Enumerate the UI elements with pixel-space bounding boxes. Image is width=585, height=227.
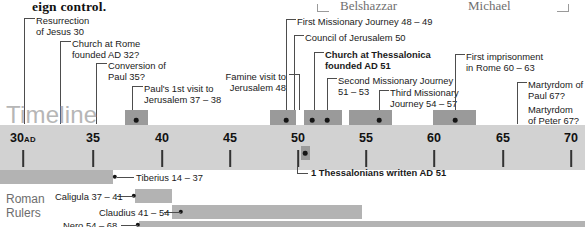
callout-first-missionary-journey-line1: First Missionary Journey 48 – 49 <box>297 17 432 28</box>
callout-church-at-thessalonica-line2: founded AD 51 <box>325 61 431 72</box>
callout-first-imprisonment-line2: in Rome 60 – 63 <box>466 63 543 74</box>
callout-conversion-of-paul-line2: Paul 35? <box>108 72 166 83</box>
callout-famine-visit-line1: Famine visit to <box>200 72 286 83</box>
ruler-label-claudius: Claudius 41 – 54 <box>99 207 169 218</box>
axis-tick-35 <box>92 150 94 167</box>
callout-council-of-jerusalem-line1: Council of Jerusalem 50 <box>305 33 406 44</box>
callout-church-at-rome-line1: Church at Rome <box>72 39 140 50</box>
axis-label-70: 70 <box>564 131 578 145</box>
callout-third-missionary-journey-line2: Journey 54 – 57 <box>390 99 459 110</box>
callout-martyrdom-of-peter: Martyrdom of Peter 67? <box>528 105 579 126</box>
axis-label-30-year: 30 <box>10 131 24 145</box>
leader-elbow-resurrection <box>24 18 35 19</box>
ruler-leader-nero <box>121 225 138 226</box>
leader-elbow-church-at-rome <box>60 41 71 42</box>
axis-label-35: 35 <box>86 131 100 145</box>
leader-elbow-one-thessalonians <box>297 173 308 174</box>
axis-tick-65 <box>502 150 504 167</box>
leader-stem-church-at-thessalonica <box>314 52 315 110</box>
marker-dot-one-thessalonians <box>303 151 308 156</box>
leader-elbow-second-missionary-journey <box>327 78 337 79</box>
header-bracket-right <box>557 4 569 12</box>
callout-martyrdom-of-paul-line1: Martyrdom of <box>528 80 583 91</box>
leader-elbow-conversion-of-paul <box>96 63 107 64</box>
axis-tick-55 <box>365 150 367 167</box>
callout-famine-visit-line2: Jerusalem 48 <box>200 83 286 94</box>
callout-martyrdom-of-paul-line2: Paul 67? <box>528 91 583 102</box>
event-dot-pauls-first-visit <box>134 118 139 123</box>
axis-tick-40 <box>161 150 163 167</box>
ruler-bar-nero[interactable] <box>139 221 585 227</box>
leader-elbow-pauls-first-visit <box>132 86 143 87</box>
callout-church-at-rome: Church at Rome founded AD 32? <box>72 39 140 60</box>
event-dot-council-of-jerusalem <box>310 118 315 123</box>
header-name-belshazzar: Belshazzar <box>340 0 397 14</box>
event-dot-first-missionary-journey <box>284 118 289 123</box>
leader-stem-pauls-first-visit <box>132 86 133 110</box>
axis-tick-70 <box>570 150 572 167</box>
callout-council-of-jerusalem: Council of Jerusalem 50 <box>305 33 406 44</box>
cut-body-text: eign control. <box>32 0 106 15</box>
leader-elbow-first-imprisonment <box>455 54 465 55</box>
callout-martyrdom-of-paul: Martyrdom of Paul 67? <box>528 80 583 101</box>
callout-famine-visit: Famine visit to Jerusalem 48 <box>200 72 286 93</box>
callout-martyrdom-of-peter-line1: Martyrdom <box>528 105 579 116</box>
axis-tick-30 <box>22 150 24 167</box>
callout-church-at-thessalonica-line1: Church at Thessalonica <box>325 50 431 61</box>
callout-third-missionary-journey: Third Missionary Journey 54 – 57 <box>390 88 459 109</box>
ruler-bar-claudius[interactable] <box>172 205 362 219</box>
leader-stem-council-of-jerusalem <box>294 35 295 110</box>
axis-label-55: 55 <box>359 131 373 145</box>
axis-era-suffix: AD <box>24 135 36 144</box>
callout-resurrection-line2: of Jesus 30 <box>36 27 89 38</box>
leader-stem-one-thessalonians <box>297 160 298 173</box>
callout-conversion-of-paul: Conversion of Paul 35? <box>108 61 166 82</box>
leader-stem-famine-visit <box>299 74 300 110</box>
event-dot-second-missionary-journey <box>325 118 330 123</box>
leader-stem-martyrdoms <box>517 82 518 124</box>
axis-label-45: 45 <box>223 131 237 145</box>
ruler-bar-caligula[interactable] <box>135 189 172 203</box>
leader-stem-third-missionary-journey <box>379 90 380 110</box>
leader-stem-first-missionary-journey <box>286 19 287 110</box>
note-one-thessalonians: 1 Thessalonians written AD 51 <box>311 168 446 179</box>
ruler-leader-tiberius <box>117 177 134 178</box>
callout-church-at-thessalonica: Church at Thessalonica founded AD 51 <box>325 50 431 71</box>
leader-elbow-council-of-jerusalem <box>294 35 304 36</box>
axis-tick-45 <box>229 150 231 167</box>
axis-label-60: 60 <box>427 131 441 145</box>
ruler-label-nero: Nero 54 – 68 <box>63 220 117 227</box>
roman-rulers-heading-line2: Rulers <box>6 207 45 221</box>
axis-label-40: 40 <box>155 131 169 145</box>
leader-stem-second-missionary-journey <box>327 78 328 110</box>
leader-elbow-martyrdoms <box>517 82 527 83</box>
roman-rulers-heading-line1: Roman <box>6 193 45 207</box>
event-dot-third-missionary-journey <box>377 118 382 123</box>
callout-first-imprisonment: First imprisonment in Rome 60 – 63 <box>466 52 543 73</box>
callout-first-imprisonment-line1: First imprisonment <box>466 52 543 63</box>
timeline-heading: Timeline <box>6 101 97 129</box>
axis-label-65: 65 <box>496 131 510 145</box>
header-name-michael: Michael <box>468 0 511 14</box>
leader-elbow-church-at-thessalonica <box>314 52 324 53</box>
axis-tick-60 <box>433 150 435 167</box>
header-bracket-left <box>317 4 329 12</box>
callout-third-missionary-journey-line1: Third Missionary <box>390 88 459 99</box>
callout-first-missionary-journey: First Missionary Journey 48 – 49 <box>297 17 432 28</box>
callout-pauls-first-visit-line2: Jerusalem 37 – 38 <box>144 95 221 106</box>
callout-second-missionary-journey-line1: Second Missionary Journey <box>338 76 453 87</box>
callout-church-at-rome-line2: founded AD 32? <box>72 50 140 61</box>
callout-resurrection-line1: Resurrection <box>36 16 89 27</box>
leader-elbow-third-missionary-journey <box>379 90 389 91</box>
callout-resurrection: Resurrection of Jesus 30 <box>36 16 89 37</box>
leader-elbow-first-missionary-journey <box>286 19 296 20</box>
axis-label-50: 50 <box>291 131 305 145</box>
event-dot-first-imprisonment <box>453 118 458 123</box>
ruler-label-caligula: Caligula 37 – 41 <box>55 191 123 202</box>
callout-conversion-of-paul-line1: Conversion of <box>108 61 166 72</box>
ruler-label-tiberius: Tiberius 14 – 37 <box>136 172 203 183</box>
ruler-bar-tiberius[interactable] <box>0 170 113 184</box>
leader-stem-first-imprisonment <box>455 54 456 110</box>
roman-rulers-heading: Roman Rulers <box>6 193 45 220</box>
axis-label-30: 30AD <box>10 131 36 145</box>
